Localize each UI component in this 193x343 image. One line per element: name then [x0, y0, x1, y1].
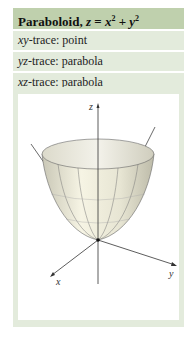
z-axis-label: z: [88, 101, 93, 112]
x-axis: [52, 240, 98, 275]
title-prefix: Paraboloid,: [18, 14, 86, 29]
trace-plane: xy: [18, 33, 29, 47]
trace-label: -trace: parabola: [28, 54, 103, 68]
trace-row-xy: xy-trace: point: [13, 31, 184, 50]
y-axis-label: y: [168, 268, 174, 279]
trace-row-yz: yz-trace: parabola: [13, 52, 184, 71]
trace-label: -trace: point: [29, 33, 87, 47]
z-axis-arrow-icon: [97, 103, 100, 108]
eq-exp2: 2: [135, 14, 139, 23]
y-axis-arrow-icon: [171, 262, 177, 266]
x-axis-label: x: [55, 276, 61, 287]
y-axis: [98, 240, 175, 265]
trace-plane: yz: [18, 54, 28, 68]
paraboloid-info-table: Paraboloid, z = x2 + y2 xy-trace: point …: [13, 8, 184, 92]
eq-op: =: [91, 14, 105, 29]
vertex-point: [96, 238, 100, 242]
paraboloid-figure-panel: z x y: [13, 87, 184, 327]
paraboloid-graph: z x y: [18, 94, 179, 320]
x-axis-arrow-icon: [50, 272, 55, 277]
table-header: Paraboloid, z = x2 + y2: [13, 8, 184, 29]
figure-canvas: z x y: [18, 94, 179, 320]
eq-plus: +: [115, 14, 129, 29]
